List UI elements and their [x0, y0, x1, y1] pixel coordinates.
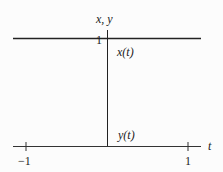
- tick-label-minus-one: −1: [18, 154, 31, 168]
- y-axis-label: x, y: [95, 12, 113, 26]
- x-curve-label: x(t): [116, 45, 134, 59]
- y-curve-label: y(t): [117, 128, 135, 142]
- level-one-label: 1: [96, 33, 102, 47]
- tick-label-one: 1: [185, 154, 191, 168]
- diagram-canvas: x, y 1 x(t) y(t) t −1 1: [0, 0, 223, 172]
- t-axis-label: t: [208, 139, 212, 153]
- signal-diagram: x, y 1 x(t) y(t) t −1 1: [0, 0, 223, 172]
